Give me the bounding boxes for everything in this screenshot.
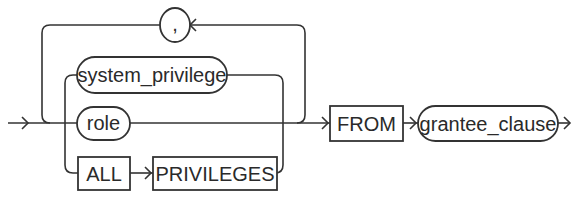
syntax-diagram: , system_privilege role ALL PRIVILEGES F… [0,0,576,200]
grantee-clause-node: grantee_clause [418,106,558,141]
role-node: role [77,107,130,140]
from-keyword-node: FROM [330,106,403,141]
arrow-to-grantee [403,117,418,129]
all-keyword-node: ALL [78,157,130,190]
privileges-label: PRIVILEGES [156,163,275,185]
system-privilege-node: system_privilege [77,57,227,93]
comma-separator: , [160,8,190,42]
comma-label: , [172,13,178,35]
all-label: ALL [86,163,122,185]
grantee-clause-label: grantee_clause [420,113,557,136]
role-label: role [87,112,120,134]
from-label: FROM [337,113,396,135]
system-privilege-label: system_privilege [78,64,227,87]
privileges-keyword-node: PRIVILEGES [153,157,277,190]
exit-arrow [558,117,570,129]
